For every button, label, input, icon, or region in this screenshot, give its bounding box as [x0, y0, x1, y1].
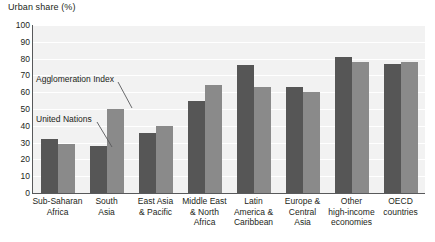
chart-container: Urban share (%) 1009080706050403020100 A…: [0, 0, 435, 242]
bar-group: [139, 25, 173, 193]
y-axis-tick-label: 0: [4, 189, 30, 197]
bar-group: [41, 25, 75, 193]
bar[interactable]: [254, 87, 271, 193]
bar[interactable]: [352, 62, 369, 193]
y-axis-tick-labels: 1009080706050403020100: [0, 0, 30, 242]
bar[interactable]: [107, 109, 124, 193]
bar[interactable]: [156, 126, 173, 193]
bar[interactable]: [286, 87, 303, 193]
bar[interactable]: [58, 144, 75, 193]
x-axis-line: [32, 193, 425, 194]
bar[interactable]: [41, 139, 58, 193]
y-axis-tick-label: 100: [4, 21, 30, 29]
x-axis-label-line: OECD: [372, 196, 429, 207]
bar[interactable]: [188, 101, 205, 193]
y-axis-tick-label: 30: [4, 139, 30, 147]
bar-group: [286, 25, 320, 193]
bar-group: [188, 25, 222, 193]
y-axis-tick-label: 90: [4, 38, 30, 46]
x-axis-category-label: OECDcountries: [372, 196, 429, 217]
bar[interactable]: [90, 146, 107, 193]
bar[interactable]: [401, 62, 418, 193]
bars-layer: [33, 25, 425, 193]
y-axis-tick-label: 80: [4, 55, 30, 63]
bar-group: [237, 25, 271, 193]
bar[interactable]: [303, 92, 320, 193]
bar[interactable]: [384, 64, 401, 193]
bar[interactable]: [139, 133, 156, 193]
annotation-agglomeration-index: Agglomeration Index: [36, 74, 114, 84]
x-axis-label-line: economies: [323, 217, 380, 228]
x-axis-label-line: countries: [372, 207, 429, 218]
bar[interactable]: [237, 65, 254, 193]
y-axis-tick-label: 60: [4, 88, 30, 96]
annotation-united-nations: United Nations: [36, 114, 92, 124]
bar[interactable]: [205, 85, 222, 193]
x-axis-category-labels: Sub-SaharanAfricaSouthAsiaEast Asia& Pac…: [33, 196, 425, 242]
bar-group: [384, 25, 418, 193]
y-axis-tick-label: 20: [4, 155, 30, 163]
bar-group: [90, 25, 124, 193]
bar-group: [335, 25, 369, 193]
bar[interactable]: [335, 57, 352, 193]
y-axis-tick-label: 10: [4, 172, 30, 180]
y-axis-tick-label: 40: [4, 122, 30, 130]
y-axis-tick-label: 70: [4, 71, 30, 79]
y-axis-tick-label: 50: [4, 105, 30, 113]
